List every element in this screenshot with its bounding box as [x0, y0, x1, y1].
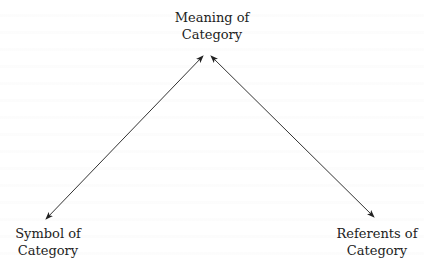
node-referents-of-category: Referents of Category: [330, 225, 424, 259]
node-meaning-of-category: Meaning of Category: [157, 9, 267, 43]
node-symbol-of-category: Symbol of Category: [8, 225, 88, 259]
node-symbol-line1: Symbol of: [8, 225, 88, 242]
node-referents-line1: Referents of: [330, 225, 424, 242]
arrow-referents-meaning: [211, 56, 374, 217]
node-meaning-line2: Category: [157, 26, 267, 43]
node-meaning-line1: Meaning of: [157, 9, 267, 26]
node-referents-line2: Category: [330, 242, 424, 259]
node-symbol-line2: Category: [8, 242, 88, 259]
arrow-symbol-meaning: [46, 56, 203, 219]
